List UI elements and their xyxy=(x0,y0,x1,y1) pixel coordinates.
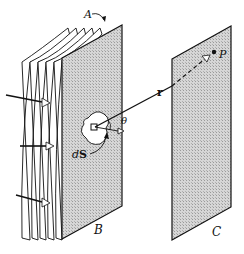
label-c: C xyxy=(212,225,221,239)
point-p xyxy=(212,50,216,54)
label-ds-d: d xyxy=(72,148,79,161)
diffraction-diagram: A θ d S r P B C xyxy=(0,0,244,254)
incident-arrows xyxy=(6,95,54,207)
a-arrowhead-icon xyxy=(102,16,106,22)
a-pointer-arrow xyxy=(92,14,104,20)
label-r: r xyxy=(157,86,163,99)
label-p: P xyxy=(218,48,227,61)
label-theta: θ xyxy=(121,115,127,126)
label-a: A xyxy=(83,8,92,21)
label-b: B xyxy=(93,223,103,237)
label-ds-s: S xyxy=(79,148,87,161)
